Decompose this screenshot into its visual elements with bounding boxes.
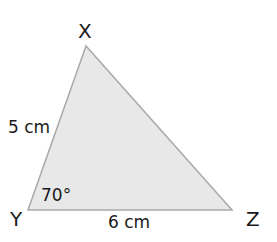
vertex-label-x: X: [78, 19, 92, 43]
vertex-label-z: Z: [246, 207, 260, 231]
side-label-yz: 6 cm: [108, 212, 150, 232]
triangle-diagram: X Y Z 5 cm 6 cm 70°: [0, 0, 277, 242]
angle-label-y: 70°: [41, 185, 71, 205]
vertex-label-y: Y: [9, 207, 23, 231]
side-label-xy: 5 cm: [8, 117, 50, 137]
